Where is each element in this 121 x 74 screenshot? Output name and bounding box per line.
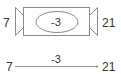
top-center-label: -3 [51,16,61,28]
top-right-label: 21 [102,16,116,30]
number-line-diagram: 7 -3 21 7 -3 21 [0,0,121,74]
top-left-label: 7 [3,16,10,30]
bottom-left-label: 7 [6,60,13,74]
number-line-end-dot [96,66,98,68]
bottom-right-label: 21 [102,60,116,74]
bottom-center-label: -3 [51,53,61,65]
left-wrapper-end [16,8,24,36]
right-wrapper-end [90,8,98,36]
